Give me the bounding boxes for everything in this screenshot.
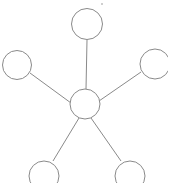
edge-center-to-right[interactable] bbox=[99, 72, 141, 101]
nodes-layer bbox=[3, 9, 169, 184]
node-right[interactable] bbox=[140, 49, 168, 79]
edge-center-to-top[interactable] bbox=[86, 40, 87, 89]
node-circle-top[interactable] bbox=[72, 9, 103, 40]
edge-center-to-left[interactable] bbox=[30, 73, 71, 103]
node-circle-right[interactable] bbox=[140, 49, 168, 79]
node-circle-bottom-left[interactable] bbox=[29, 161, 59, 183]
edge-center-to-bottom-left[interactable] bbox=[53, 118, 79, 161]
node-link-diagram bbox=[0, 0, 168, 183]
node-bottom-right[interactable] bbox=[115, 161, 145, 183]
edge-center-to-bottom-right[interactable] bbox=[91, 118, 121, 161]
node-center[interactable] bbox=[70, 89, 100, 119]
node-bottom-left[interactable] bbox=[29, 161, 59, 183]
node-left[interactable] bbox=[3, 51, 32, 80]
node-top[interactable] bbox=[72, 9, 103, 40]
node-circle-center[interactable] bbox=[70, 89, 100, 119]
scan-artifacts-layer bbox=[101, 3, 103, 5]
node-circle-left[interactable] bbox=[3, 51, 32, 80]
diagram-canvas bbox=[0, 0, 168, 183]
speck-top bbox=[101, 3, 103, 5]
node-circle-bottom-right[interactable] bbox=[115, 161, 145, 183]
